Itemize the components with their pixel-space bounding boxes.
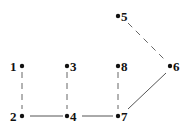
edge-5-6 [128, 23, 165, 60]
edge-7-6 [128, 73, 166, 109]
node-4: 4 [65, 109, 77, 124]
node-label: 5 [121, 9, 128, 24]
node-label: 8 [121, 59, 128, 74]
node-2: 2 [10, 109, 24, 124]
node-1: 1 [10, 59, 24, 74]
edges [22, 23, 166, 116]
node-8: 8 [116, 59, 128, 74]
node-label: 4 [70, 109, 77, 124]
node-6: 6 [168, 59, 180, 74]
node-label: 1 [10, 59, 17, 74]
node-label: 3 [70, 59, 77, 74]
node-dot [65, 64, 69, 68]
node-dot [20, 114, 24, 118]
node-dot [168, 64, 172, 68]
node-3: 3 [65, 59, 77, 74]
node-5: 5 [116, 9, 128, 24]
node-dot [116, 14, 120, 18]
graph-diagram: 1 2 3 4 5 6 7 8 [0, 0, 191, 127]
node-7: 7 [116, 109, 128, 124]
node-dot [116, 114, 120, 118]
node-label: 6 [173, 59, 180, 74]
node-dot [116, 64, 120, 68]
node-dot [20, 64, 24, 68]
node-label: 7 [121, 109, 128, 124]
node-label: 2 [10, 109, 17, 124]
node-dot [65, 114, 69, 118]
